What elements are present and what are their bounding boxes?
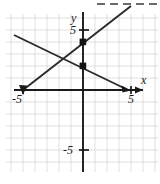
point-upper [80, 39, 87, 46]
y-tick-label-5: 5 [70, 24, 76, 36]
y-tick-label-neg5: -5 [63, 144, 73, 156]
x-axis-arrowhead [135, 87, 143, 94]
graph-figure: y x 5 -5 -5 5 [0, 0, 160, 184]
point-lower [80, 63, 87, 70]
x-axis-label: x [141, 74, 146, 86]
coordinate-plane-svg [0, 0, 160, 184]
x-tick-label-neg5: -5 [12, 93, 22, 105]
x-tick-label-5: 5 [128, 93, 134, 105]
